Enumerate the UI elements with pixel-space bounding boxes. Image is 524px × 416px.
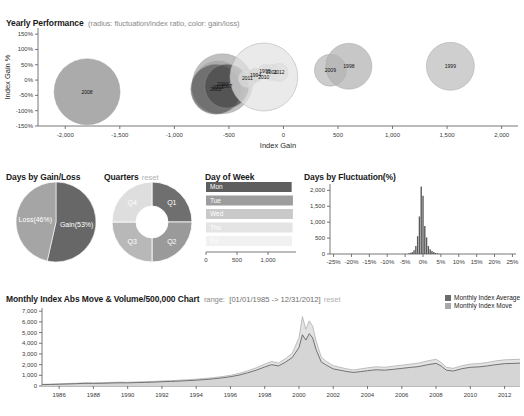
svg-text:1,500: 1,500 [440, 132, 456, 138]
svg-text:-25%: -25% [327, 259, 342, 265]
svg-text:Mon: Mon [210, 183, 223, 190]
svg-text:2000: 2000 [292, 392, 306, 398]
svg-text:-1,000: -1,000 [166, 132, 184, 138]
svg-text:-10%: -10% [380, 259, 395, 265]
svg-text:Fri: Fri [210, 237, 218, 244]
svg-text:500: 500 [315, 235, 326, 241]
svg-text:5,000: 5,000 [22, 330, 38, 336]
svg-text:2001: 2001 [210, 86, 221, 92]
svg-text:1990: 1990 [121, 392, 135, 398]
dashboard-page: Yearly Performance (radius: fluctuation/… [0, 0, 524, 416]
svg-text:0: 0 [204, 257, 208, 263]
svg-text:Q4: Q4 [128, 199, 137, 207]
svg-text:Tue: Tue [210, 197, 221, 204]
svg-text:0: 0 [322, 251, 326, 257]
svg-text:2010: 2010 [464, 392, 478, 398]
svg-text:1,000: 1,000 [261, 257, 277, 263]
svg-text:Thu: Thu [210, 224, 222, 231]
svg-text:2008: 2008 [429, 392, 443, 398]
svg-text:Q2: Q2 [167, 238, 176, 246]
svg-text:-5%: -5% [400, 259, 411, 265]
svg-text:2008: 2008 [82, 89, 93, 95]
fluctuation-histogram[interactable]: 05001,0001,5002,000-25%-20%-15%-10%-5%0%… [300, 176, 522, 274]
svg-text:Wed: Wed [210, 210, 224, 217]
svg-text:10%: 10% [453, 259, 466, 265]
svg-text:1992: 1992 [155, 392, 169, 398]
svg-text:2,000: 2,000 [494, 132, 510, 138]
svg-text:15%: 15% [471, 259, 484, 265]
svg-text:1998: 1998 [258, 392, 272, 398]
svg-text:2,000: 2,000 [310, 187, 326, 193]
svg-text:2,000: 2,000 [22, 362, 38, 368]
svg-text:2010: 2010 [258, 74, 269, 80]
svg-text:20%: 20% [489, 259, 502, 265]
svg-text:-20%: -20% [344, 259, 359, 265]
svg-text:100%: 100% [18, 46, 34, 52]
svg-text:Loss(46%): Loss(46%) [19, 216, 52, 224]
svg-text:50%: 50% [21, 62, 34, 68]
svg-text:1,500: 1,500 [310, 203, 326, 209]
svg-text:2004: 2004 [361, 392, 375, 398]
svg-text:1998: 1998 [343, 63, 354, 69]
svg-text:2006: 2006 [395, 392, 409, 398]
svg-text:2002: 2002 [327, 392, 341, 398]
svg-text:500: 500 [232, 257, 243, 263]
svg-text:1,000: 1,000 [22, 372, 38, 378]
svg-text:-2,000: -2,000 [57, 132, 75, 138]
svg-text:0%: 0% [24, 77, 33, 83]
svg-text:0: 0 [282, 132, 286, 138]
svg-text:500: 500 [333, 132, 344, 138]
svg-text:-100%: -100% [16, 108, 34, 114]
svg-text:Index Gain: Index Gain [260, 141, 296, 150]
svg-text:1988: 1988 [87, 392, 101, 398]
svg-text:Q1: Q1 [167, 199, 176, 207]
yearly-performance-chart[interactable]: 150%100%50%0%-50%-100%-150%Index Gain %-… [0, 22, 524, 152]
svg-text:1986: 1986 [52, 392, 66, 398]
svg-text:-15%: -15% [362, 259, 377, 265]
quarters-donut-chart[interactable]: Q1Q2Q3Q4 [100, 176, 204, 270]
svg-text:0%: 0% [419, 259, 428, 265]
svg-text:1,000: 1,000 [385, 132, 401, 138]
svg-text:4,000: 4,000 [22, 340, 38, 346]
day-of-week-bar-chart[interactable]: MonTueWedThuFri05001,000 [200, 176, 300, 272]
svg-text:2009: 2009 [325, 67, 336, 73]
svg-text:2012: 2012 [274, 69, 285, 75]
svg-text:150%: 150% [18, 31, 34, 37]
svg-text:1999: 1999 [445, 63, 456, 69]
svg-text:0: 0 [34, 383, 38, 389]
monthly-index-area-chart[interactable]: 01,0002,0003,0004,0005,0006,0007,0001986… [0, 300, 524, 416]
svg-text:Gain(53%): Gain(53%) [60, 221, 93, 229]
gain-loss-pie-chart[interactable]: Gain(53%)Loss(46%) [4, 176, 108, 270]
svg-text:5%: 5% [437, 259, 446, 265]
svg-text:-150%: -150% [16, 123, 34, 129]
svg-text:25%: 25% [506, 259, 519, 265]
svg-text:2007: 2007 [221, 83, 232, 89]
svg-text:Index Gain %: Index Gain % [3, 54, 12, 99]
svg-text:2012: 2012 [498, 392, 512, 398]
svg-text:-500: -500 [223, 132, 236, 138]
svg-text:Q3: Q3 [128, 238, 137, 246]
svg-text:1,000: 1,000 [310, 219, 326, 225]
svg-text:6,000: 6,000 [22, 319, 38, 325]
svg-text:1996: 1996 [224, 392, 238, 398]
svg-text:7,000: 7,000 [22, 308, 38, 314]
svg-text:-1,500: -1,500 [111, 132, 129, 138]
svg-text:3,000: 3,000 [22, 351, 38, 357]
svg-text:-50%: -50% [19, 92, 34, 98]
svg-text:1994: 1994 [190, 392, 204, 398]
